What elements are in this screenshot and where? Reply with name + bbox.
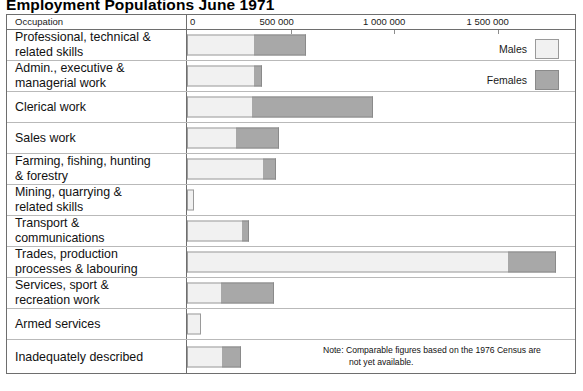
bar-segment-females <box>236 128 279 149</box>
chart-note: Note: Comparable figures based on the 19… <box>323 344 569 368</box>
row-label: Admin., executive &managerial work <box>15 61 183 91</box>
bar-segment-males <box>187 252 508 273</box>
legend-item-males: Males <box>439 39 559 59</box>
bar-segment-males <box>187 190 194 211</box>
axis-tick-label: 1 500 000 <box>467 16 509 27</box>
chart-row: Mining, quarrying &related skills <box>7 185 575 216</box>
bar-segment-males <box>187 314 201 335</box>
bar-segment-females <box>263 159 276 180</box>
bar-segment-males <box>187 221 242 242</box>
bar-group <box>187 159 276 180</box>
axis-tick-label: 1 000 000 <box>363 16 405 27</box>
bar-group <box>187 35 306 56</box>
legend-label-males: Males <box>499 43 527 55</box>
row-label: Clerical work <box>15 100 183 115</box>
row-label: Inadequately described <box>15 349 183 364</box>
legend-item-females: Females <box>439 70 559 90</box>
chart-frame: Occupation 0500 0001 000 0001 500 000 Pr… <box>6 14 576 374</box>
row-label: Services, sport &recreation work <box>15 278 183 308</box>
row-label: Professional, technical &related skills <box>15 30 183 60</box>
axis-header: Occupation 0500 0001 000 0001 500 000 <box>7 15 575 30</box>
bar-group <box>187 283 274 304</box>
bar-group <box>187 221 249 242</box>
bar-segment-males <box>187 97 252 118</box>
page-title: Employment Populations June 1971 <box>6 0 275 14</box>
note-line-1: Note: Comparable figures based on the 19… <box>323 344 569 356</box>
chart-row: Services, sport &recreation work <box>7 278 575 309</box>
bar-segment-females <box>508 252 556 273</box>
row-label: Trades, productionprocesses & labouring <box>15 247 183 277</box>
bar-segment-males <box>187 35 254 56</box>
bar-segment-females <box>242 221 249 242</box>
bar-group <box>187 190 194 211</box>
bar-group <box>187 346 241 367</box>
bar-segment-males <box>187 159 263 180</box>
chart-row: Trades, productionprocesses & labouring <box>7 247 575 278</box>
axis-tick-mark <box>394 30 395 34</box>
chart-row: Sales work <box>7 123 575 154</box>
row-label: Mining, quarrying &related skills <box>15 185 183 215</box>
bar-group <box>187 128 279 149</box>
bar-segment-males <box>187 128 236 149</box>
legend-swatch-females <box>535 70 559 90</box>
bar-segment-males <box>187 346 222 367</box>
axis-tick-mark <box>498 30 499 34</box>
legend-label-females: Females <box>487 74 527 86</box>
bar-segment-males <box>187 283 221 304</box>
chart-row: Transport &communications <box>7 216 575 247</box>
bar-segment-females <box>222 346 241 367</box>
row-label: Transport &communications <box>15 216 183 246</box>
bar-group <box>187 314 201 335</box>
chart-row: Farming, fishing, hunting& forestry <box>7 154 575 185</box>
bar-group <box>187 252 556 273</box>
bar-segment-females <box>254 66 262 87</box>
bar-segment-males <box>187 66 254 87</box>
legend-swatch-males <box>535 39 559 59</box>
bar-segment-females <box>221 283 274 304</box>
chart-row: Armed services <box>7 309 575 340</box>
legend: Males Females <box>439 39 559 101</box>
bar-group <box>187 97 373 118</box>
row-label: Farming, fishing, hunting& forestry <box>15 154 183 184</box>
row-label: Armed services <box>15 317 183 332</box>
axis-tick-label: 0 <box>190 16 195 27</box>
axis-tick-mark <box>291 30 292 34</box>
bar-segment-females <box>252 97 373 118</box>
bar-group <box>187 66 262 87</box>
axis-tick-label: 500 000 <box>260 16 294 27</box>
row-label: Sales work <box>15 131 183 146</box>
note-line-2: not yet available. <box>349 356 569 368</box>
occupation-column-header: Occupation <box>15 16 63 27</box>
bar-segment-females <box>254 35 306 56</box>
